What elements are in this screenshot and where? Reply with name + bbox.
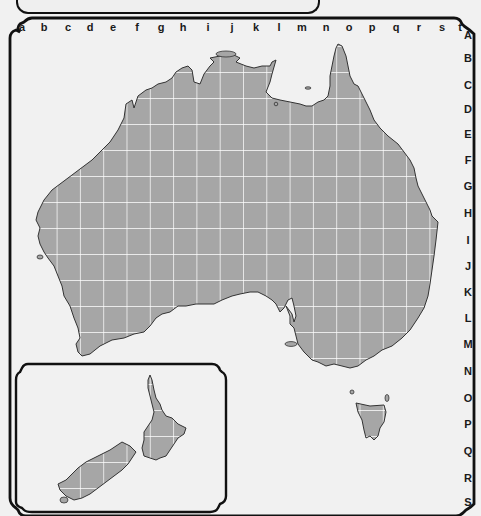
groote-island <box>274 102 278 106</box>
row-label: S <box>464 497 471 508</box>
column-label: j <box>230 22 233 33</box>
row-label: R <box>464 473 472 484</box>
row-label: B <box>464 53 472 64</box>
column-label: g <box>158 22 165 33</box>
row-label: L <box>465 313 472 324</box>
map-frame: a b c d e f g h i j k l m n o p q r s t … <box>0 0 481 516</box>
column-label: l <box>277 22 280 33</box>
column-label: i <box>206 22 209 33</box>
column-label: o <box>346 22 353 33</box>
flinders-island <box>385 395 389 402</box>
row-label: M <box>463 339 472 350</box>
row-label: G <box>464 181 473 192</box>
kangaroo-island <box>285 342 297 347</box>
column-label: h <box>180 22 187 33</box>
column-label: m <box>297 22 307 33</box>
row-label: E <box>464 129 471 140</box>
melville-island <box>216 51 236 57</box>
column-label: d <box>87 22 94 33</box>
column-label: r <box>417 22 421 33</box>
column-label: s <box>439 22 445 33</box>
column-label: f <box>135 22 139 33</box>
row-label: D <box>464 104 472 115</box>
column-label: n <box>323 22 330 33</box>
map-canvas <box>0 0 481 516</box>
row-label: F <box>465 155 472 166</box>
stewart-island <box>60 497 68 503</box>
row-label: H <box>464 208 472 219</box>
row-label: I <box>466 235 469 246</box>
row-label: O <box>464 393 473 404</box>
column-label: c <box>65 22 71 33</box>
row-label: K <box>464 287 472 298</box>
column-label: p <box>369 22 376 33</box>
column-labels: a b c d e f g h i j k l m n o p q r s t <box>0 22 481 38</box>
row-label: J <box>465 261 471 272</box>
king-island <box>350 390 354 394</box>
column-label: t <box>458 22 462 33</box>
row-label: Q <box>464 446 473 457</box>
column-label: a <box>19 22 25 33</box>
row-label: C <box>464 80 472 91</box>
column-label: e <box>110 22 116 33</box>
dirk-hartog-island <box>37 255 43 259</box>
column-label: q <box>393 22 400 33</box>
column-label: b <box>41 22 48 33</box>
column-label: k <box>253 22 259 33</box>
new-zealand-inset-frame <box>16 364 226 512</box>
row-label: P <box>464 419 471 430</box>
mornington-island <box>305 87 311 89</box>
row-label: A <box>464 30 472 41</box>
row-label: N <box>464 366 472 377</box>
